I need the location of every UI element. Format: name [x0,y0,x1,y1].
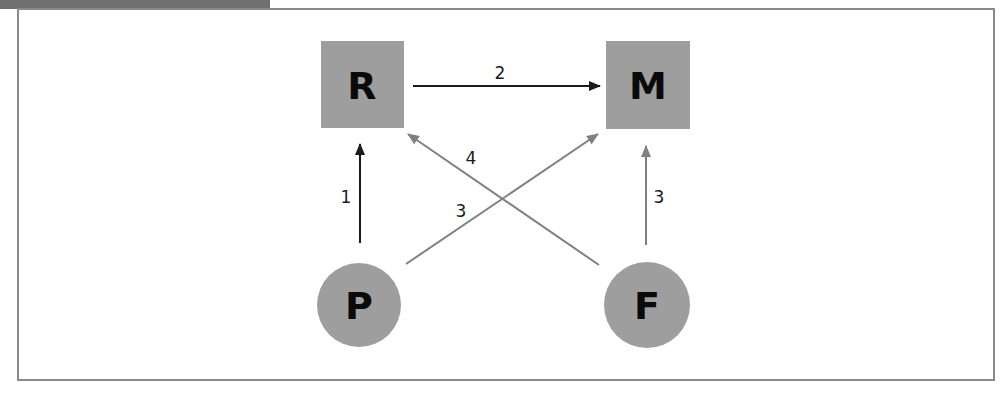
edge-label-4: 4 [466,148,477,168]
edge-label-1: 1 [341,187,352,207]
node-p: P [317,263,401,347]
edge-r-to-m: 2 [413,63,600,86]
flow-diagram: R M P F 1 2 3 4 3 [0,0,1005,396]
edge-p-to-r: 1 [341,144,360,243]
node-f-label: F [634,284,660,328]
edge-label-2: 2 [495,63,506,83]
node-f: F [604,262,690,348]
node-m: M [606,41,690,129]
edge-f-to-m: 3 [646,146,664,245]
node-r-label: R [347,64,376,108]
node-m-label: M [629,64,667,108]
edge-label-3-diagonal: 3 [456,201,467,221]
edge-label-3-vertical: 3 [654,187,665,207]
node-r: R [321,41,404,128]
node-p-label: P [345,284,373,328]
